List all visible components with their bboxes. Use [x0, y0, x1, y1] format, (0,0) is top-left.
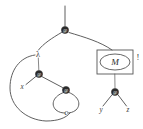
- edge-app-inner-loop-left: [53, 93, 65, 114]
- edge-app-left-to-x: [26, 77, 36, 85]
- application-node-left-glyph: @: [37, 72, 41, 77]
- term-graph-diagram: M ! λ @ @ @ @ x c y z: [0, 0, 143, 129]
- variable-label-z: z: [126, 106, 130, 114]
- variable-label-y: y: [98, 106, 103, 114]
- edge-app-right-to-y: [103, 95, 112, 106]
- boxed-term-label: M: [110, 57, 120, 67]
- variable-label-x: x: [19, 83, 24, 91]
- edge-app-inner-loop-right: [68, 93, 79, 114]
- application-node-inner-glyph: @: [64, 88, 68, 93]
- edge-root-to-box: [69, 33, 112, 51]
- application-node-root-glyph: @: [63, 28, 67, 33]
- application-node-right-glyph: @: [113, 90, 117, 95]
- edge-binder-arc: [10, 55, 70, 121]
- edge-lambda-to-app-left: [38, 58, 39, 70]
- bang-marker-label: !: [137, 52, 140, 62]
- edge-root-to-lambda: [39, 33, 62, 51]
- lambda-binder-label: λ: [36, 50, 41, 59]
- edge-app-right-to-z: [118, 95, 127, 106]
- graph-canvas: M ! λ @ @ @ @ x c y z: [0, 0, 143, 129]
- edge-app-left-to-app-inner: [42, 77, 62, 88]
